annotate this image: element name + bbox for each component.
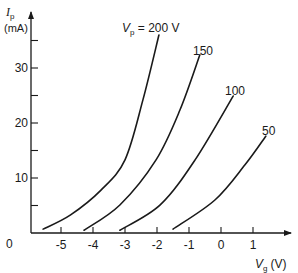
y-axis-unit: (mA): [4, 22, 28, 34]
y-axis-label: Ip: [5, 5, 15, 21]
series-label-100v: 100: [225, 84, 245, 98]
plate-voltage-curves: [43, 35, 266, 230]
y-tick-label: 30: [15, 61, 29, 75]
series-label-200v: Vp = 200 V: [122, 21, 180, 37]
x-axis-label: Vg(V): [255, 257, 286, 273]
x-tick-label: 1: [250, 238, 257, 252]
x-axis-ticks: -5-4-3-2-101: [56, 227, 257, 252]
x-tick-label: 0: [218, 238, 225, 252]
curve-150v: [84, 55, 200, 230]
series-label-150v: 150: [193, 44, 213, 58]
y-tick-label: 20: [15, 116, 29, 130]
y-axis-ticks: 102030: [15, 41, 38, 206]
origin-label: 0: [6, 237, 13, 251]
curve-50v: [173, 136, 266, 229]
x-tick-label: -5: [56, 238, 67, 252]
series-label-50v: 50: [262, 124, 276, 138]
x-tick-label: -4: [88, 238, 99, 252]
triode-characteristic-chart: -5-4-3-2-101 102030 0 Ip (mA) Vg(V) Vp =…: [0, 0, 298, 273]
y-tick-label: 10: [15, 171, 29, 185]
x-tick-label: -3: [120, 238, 131, 252]
curve-200v: [43, 35, 159, 229]
x-tick-label: -1: [184, 238, 195, 252]
x-tick-label: -2: [152, 238, 163, 252]
